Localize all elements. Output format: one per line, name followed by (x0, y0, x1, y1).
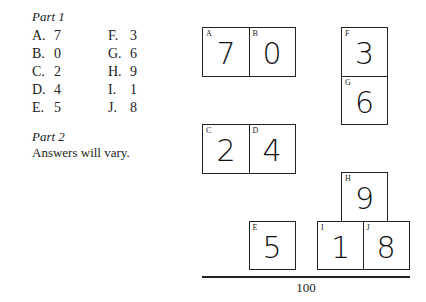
sum-line (202, 276, 410, 278)
answer-c: C.2 (32, 63, 102, 81)
box-a: A 7 (202, 27, 250, 77)
answers-right-column: F.3 G.6 H.9 I.1 J.8 (108, 27, 178, 117)
answer-j: J.8 (108, 99, 178, 117)
box-e: E 5 (249, 221, 296, 270)
box-c: C 2 (202, 124, 250, 174)
box-f: F 3 (341, 27, 388, 77)
part1-title: Part 1 (32, 8, 65, 25)
part2-text: Answers will vary. (32, 144, 130, 161)
box-i: I 1 (317, 221, 364, 270)
box-d: D 4 (249, 124, 296, 174)
answer-a: A.7 (32, 27, 102, 45)
box-b: B 0 (249, 27, 296, 77)
answer-f: F.3 (108, 27, 178, 45)
answer-g: G.6 (108, 45, 178, 63)
answer-i: I.1 (108, 81, 178, 99)
answer-e: E.5 (32, 99, 102, 117)
box-g: G 6 (341, 76, 388, 125)
answer-b: B.0 (32, 45, 102, 63)
box-h: H 9 (341, 172, 388, 222)
box-j: J 8 (363, 221, 410, 270)
answer-h: H.9 (108, 63, 178, 81)
sum-total: 100 (202, 280, 410, 296)
part2-title: Part 2 (32, 128, 65, 145)
answer-d: D.4 (32, 81, 102, 99)
